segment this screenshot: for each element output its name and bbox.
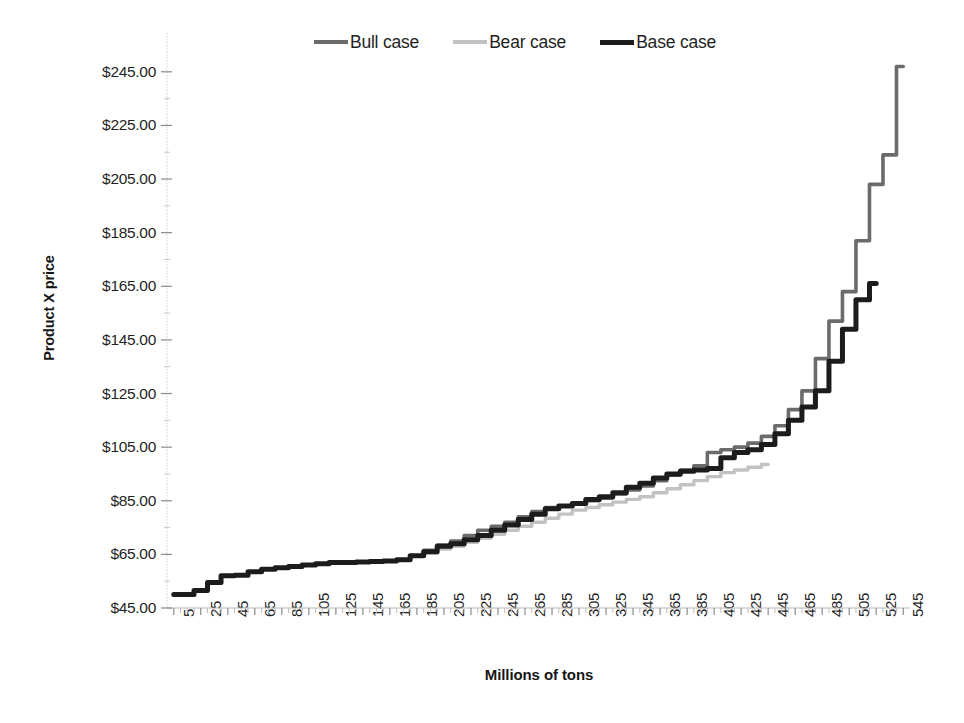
chart-container: Bull case Bear case Base case Product X … <box>0 0 964 723</box>
plot-area <box>0 0 964 723</box>
series-line-bear-case <box>174 465 768 595</box>
series-line-base-case <box>174 284 876 595</box>
